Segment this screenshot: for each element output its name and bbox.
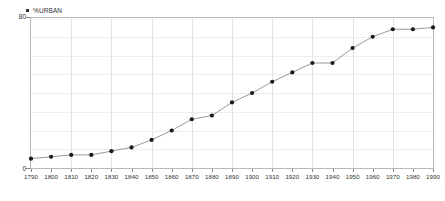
data-point-marker: [190, 117, 194, 121]
legend-label-urban: %URBAN: [33, 7, 62, 14]
x-axis-tick: [71, 169, 72, 172]
x-axis-tick: [152, 169, 153, 172]
x-axis-tick: [333, 169, 334, 172]
x-axis-tick: [353, 169, 354, 172]
data-point-marker: [210, 113, 214, 117]
data-point-marker: [150, 138, 154, 142]
data-point-marker: [391, 27, 395, 31]
data-point-marker: [290, 70, 294, 74]
x-axis-label: 1990: [420, 173, 445, 181]
data-point-marker: [431, 25, 435, 29]
x-axis-tick: [252, 169, 253, 172]
x-axis-tick: [272, 169, 273, 172]
data-layer: [31, 18, 435, 170]
x-axis-tick: [232, 169, 233, 172]
data-point-marker: [29, 157, 33, 161]
data-point-marker: [170, 128, 174, 132]
data-point-marker: [270, 80, 274, 84]
x-axis-tick: [413, 169, 414, 172]
data-point-marker: [330, 61, 334, 65]
x-axis-tick: [31, 169, 32, 172]
x-axis-tick: [111, 169, 112, 172]
x-axis-tick: [91, 169, 92, 172]
chart-legend: %URBAN: [26, 5, 62, 15]
urban-population-line-chart: %URBAN 80 0 1790180018101820183018401850…: [0, 0, 445, 201]
data-point-marker: [411, 27, 415, 31]
y-axis-min-label: 0: [2, 165, 26, 172]
x-axis-tick: [373, 169, 374, 172]
x-axis-tick: [51, 169, 52, 172]
series-line-urban: [31, 27, 433, 158]
data-point-marker: [250, 91, 254, 95]
data-point-marker: [129, 145, 133, 149]
x-axis-tick: [433, 169, 434, 172]
data-point-marker: [310, 61, 314, 65]
y-axis-max-label: 80: [2, 13, 26, 20]
data-point-marker: [89, 153, 93, 157]
series-marker-square-icon: [26, 9, 29, 12]
data-point-marker: [69, 153, 73, 157]
x-axis-tick: [292, 169, 293, 172]
x-axis-tick: [192, 169, 193, 172]
data-point-marker: [230, 100, 234, 104]
x-axis-tick: [312, 169, 313, 172]
data-point-marker: [371, 35, 375, 39]
x-axis-tick: [212, 169, 213, 172]
data-point-marker: [351, 46, 355, 50]
data-point-marker: [109, 149, 113, 153]
plot-area: [30, 17, 434, 169]
data-point-marker: [49, 155, 53, 159]
x-axis-tick: [132, 169, 133, 172]
x-axis-tick: [172, 169, 173, 172]
x-axis-tick: [393, 169, 394, 172]
